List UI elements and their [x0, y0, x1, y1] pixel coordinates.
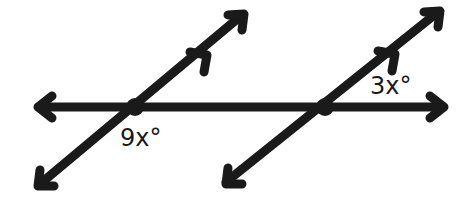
- right-angle-label: 3x°: [370, 74, 411, 98]
- right-intersection-point: [316, 98, 334, 116]
- parallel-lines-diagram: [0, 0, 471, 218]
- left-angle-label: 9x°: [120, 126, 161, 150]
- diagram-canvas: 9x° 3x°: [0, 0, 471, 218]
- left-intersection-point: [126, 98, 144, 116]
- left-parallel-line: [40, 15, 242, 184]
